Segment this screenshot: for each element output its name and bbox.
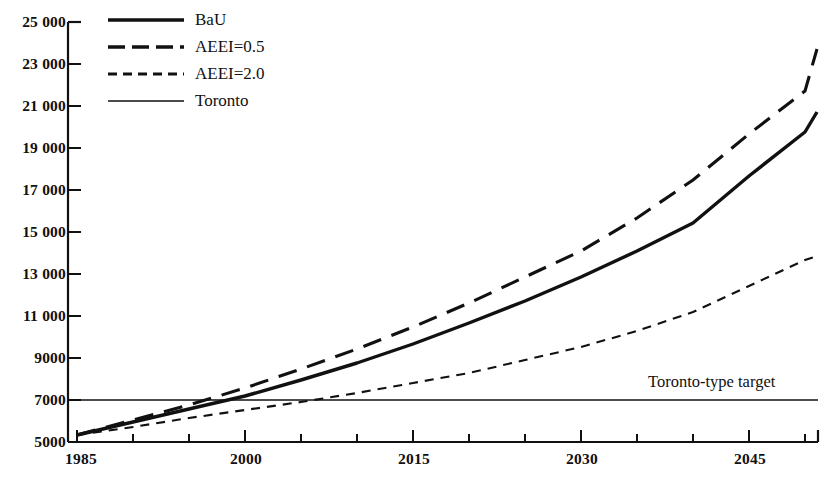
chart-legend: BaU AEEI=0.5 AEEI=2.0 <box>108 6 338 114</box>
legend-swatch-short-dash-icon <box>108 67 184 81</box>
legend-label-toronto: Toronto <box>195 92 249 109</box>
y-tick-label-19000: 19 000 <box>22 139 66 157</box>
legend-swatch-solid-thin-icon <box>108 94 184 108</box>
y-tick-label-5000: 5000 <box>34 433 66 451</box>
x-tick-label-2030: 2030 <box>566 450 598 468</box>
y-tick-label-13000: 13 000 <box>22 265 66 283</box>
y-tick-label-23000: 23 000 <box>22 55 66 73</box>
annotation-toronto-type-target: Toronto-type target <box>648 372 775 392</box>
legend-item-aeei-0-5: AEEI=0.5 <box>108 33 338 60</box>
legend-item-aeei-2-0: AEEI=2.0 <box>108 60 338 87</box>
legend-label-bau: BaU <box>195 11 226 28</box>
y-tick-label-17000: 17 000 <box>22 181 66 199</box>
y-tick-label-15000: 15 000 <box>22 223 66 241</box>
y-tick-label-21000: 21 000 <box>22 97 66 115</box>
y-tick-label-25000: 25 000 <box>22 13 66 31</box>
legend-label-aeei-2-0: AEEI=2.0 <box>195 65 265 82</box>
legend-swatch-solid-thick-icon <box>108 13 184 27</box>
legend-swatch-long-dash-icon <box>108 40 184 54</box>
y-tick-marks <box>68 22 81 400</box>
x-tick-label-1985: 1985 <box>65 450 97 468</box>
y-tick-label-11000: 11 000 <box>23 307 66 325</box>
chart-figure: 25 000 23 000 21 000 19 000 17 000 15 00… <box>0 0 828 485</box>
x-tick-label-2045: 2045 <box>734 450 766 468</box>
y-tick-label-9000: 9000 <box>34 349 66 367</box>
legend-item-bau: BaU <box>108 6 338 33</box>
legend-item-toronto: Toronto <box>108 87 338 114</box>
x-tick-label-2015: 2015 <box>398 450 430 468</box>
legend-label-aeei-0-5: AEEI=0.5 <box>195 38 265 55</box>
x-tick-marks <box>77 430 805 442</box>
x-tick-label-2000: 2000 <box>230 450 262 468</box>
y-tick-label-7000: 7000 <box>34 391 66 409</box>
